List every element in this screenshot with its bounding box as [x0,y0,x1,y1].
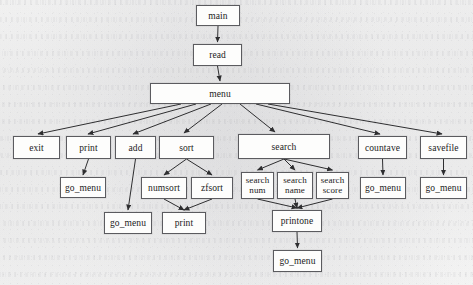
node-label: savefile [428,143,458,153]
node-printone: printone [272,210,322,232]
node-label: read [209,50,226,60]
node-label: searchnum [246,176,270,195]
node-searchname: searchname [277,172,313,199]
node-searchscore: searchscore [316,172,349,199]
node-label: printone [281,216,313,226]
node-print: print [66,136,111,159]
node-label: go_menu [279,256,315,266]
edge-print-to-gm_print [83,159,89,175]
node-savefile: savefile [420,136,467,159]
node-label: zfsort [201,183,223,193]
edge-menu-to-sort [184,104,222,133]
edge-menu-to-countave [256,104,380,134]
edge-numsort-to-print2 [164,199,184,210]
node-label: print [79,143,97,153]
edge-search-to-searchnum [258,159,285,170]
scanned-page: mainreadmenuexitprintaddsortsearchcounta… [0,0,473,285]
edge-menu-to-search [240,104,275,132]
node-label: searchscore [321,176,345,195]
edge-sort-to-zfsort [187,159,213,175]
edge-menu-to-exit [38,104,181,134]
node-label: add [128,143,142,153]
edge-searchname-to-printone [295,199,297,208]
edge-searchscore-to-printone [297,199,333,208]
node-exit: exit [13,136,60,159]
node-sort: sort [159,136,214,159]
node-menu: menu [150,83,290,104]
node-searchnum: searchnum [241,172,274,199]
node-gm_countave: go_menu [360,177,406,199]
edge-menu-to-add [133,104,211,134]
edge-menu-to-savefile [268,104,442,134]
node-label: menu [209,89,231,99]
node-label: numsort [148,183,180,193]
edge-sort-to-numsort [164,159,187,175]
node-label: search [272,142,297,152]
node-label: main [208,11,227,21]
node-gm_print: go_menu [60,177,106,198]
node-zfsort: zfsort [191,177,233,199]
node-label: print [175,218,193,228]
node-read: read [193,44,242,66]
edge-search-to-searchscore [284,159,333,170]
node-gm_savefile: go_menu [420,177,467,199]
node-add: add [115,136,156,159]
node-label: go_menu [65,183,101,193]
node-numsort: numsort [141,177,187,199]
edge-countave-to-gm_countave [383,159,384,175]
node-print2: print [162,212,206,234]
node-label: go_menu [425,183,461,193]
edge-read-to-menu [218,66,221,81]
edge-printone-to-gm_printone [297,232,298,248]
node-gm_printone: go_menu [273,250,322,272]
edge-searchnum-to-printone [258,199,298,208]
node-label: go_menu [365,183,401,193]
node-search: search [238,134,330,159]
node-main: main [196,5,240,26]
edge-menu-to-print [88,104,196,134]
edge-zfsort-to-print2 [184,199,212,210]
node-gm_add: go_menu [104,212,152,234]
node-label: go_menu [110,218,146,228]
node-countave: countave [358,136,407,159]
node-label: sort [179,143,194,153]
edge-add-to-gm_add [128,159,136,210]
node-label: countave [365,143,400,153]
edge-main-to-read [218,26,219,42]
node-label: searchname [283,176,307,195]
node-label: exit [29,143,44,153]
